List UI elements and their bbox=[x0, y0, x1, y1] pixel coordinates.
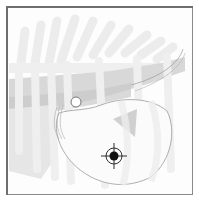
thorax-illustration bbox=[7, 7, 193, 195]
frame-edge-top bbox=[6, 6, 193, 8]
diagram-frame bbox=[6, 6, 193, 195]
frame-edge-left bbox=[6, 6, 8, 195]
landmark-circle bbox=[71, 97, 81, 107]
dorsal-rib-group bbox=[21, 19, 173, 63]
diagram-canvas bbox=[0, 0, 199, 201]
